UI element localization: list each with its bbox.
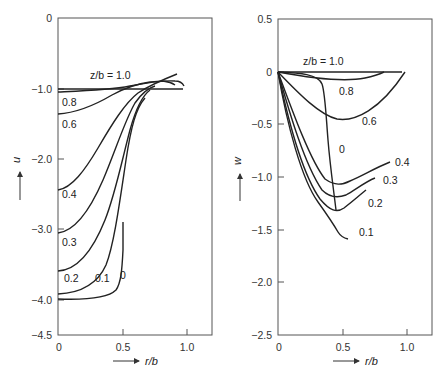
- left-curve-label-z0.8: 0.8: [62, 96, 77, 108]
- left-curve-label-z0: 0: [120, 269, 126, 281]
- curve-u-z0: [58, 222, 123, 299]
- right-y-tick-label: 0.5: [257, 13, 272, 25]
- right-x-axis: [343, 329, 407, 335]
- right-curve-label-z0.6: 0.6: [362, 115, 377, 127]
- figure: 0 −1.0 −2.0 −3.0 −4.0 −4.5 0 0.5 1.0 r/b…: [0, 0, 446, 379]
- curve-w-z0: [278, 72, 336, 210]
- right-x-tick-label: 0: [276, 341, 282, 353]
- right-x-tick-label: 1.0: [400, 341, 415, 353]
- right-plot-frame: [278, 19, 432, 335]
- left-y-tick-label: −1.0: [31, 83, 52, 95]
- left-y-axis-title: u: [10, 157, 22, 163]
- right-curve-label-z1.0: z/b = 1.0: [303, 55, 344, 67]
- left-curve-label-z0.2: 0.2: [64, 272, 79, 284]
- right-y-tick-label: 0: [266, 66, 272, 78]
- right-curve-label-z0: 0: [339, 143, 345, 155]
- left-y-tick-label: −4.5: [31, 329, 52, 341]
- right-curve-label-z0.3: 0.3: [383, 174, 398, 186]
- right-curve-label-z0.1: 0.1: [359, 226, 374, 238]
- right-curve-label-z0.2: 0.2: [368, 197, 383, 209]
- left-curve-label-z0.3: 0.3: [62, 236, 77, 248]
- left-y-tick-label: 0: [46, 12, 52, 24]
- left-curves: [58, 74, 184, 299]
- left-curve-label-z0.4: 0.4: [62, 188, 77, 200]
- right-y-tick-label: −1.0: [251, 171, 272, 183]
- right-chart-w: 0.5 0 −0.5 −1.0 −1.5 −2.0 −2.5 0 0.5 1.0…: [231, 13, 432, 367]
- left-x-axis: [123, 329, 187, 335]
- left-curve-label-z0.1: 0.1: [95, 272, 110, 284]
- curve-w-z0.1: [278, 72, 348, 239]
- curve-u-z0.3: [58, 86, 155, 233]
- left-x-axis-title: r/b: [145, 355, 158, 367]
- left-curve-label-z0.6: 0.6: [62, 118, 77, 130]
- right-y-axis: [278, 72, 284, 282]
- right-curves: [278, 72, 405, 239]
- left-y-tick-label: −4.0: [31, 294, 52, 306]
- right-y-tick-label: −1.5: [251, 224, 272, 236]
- right-x-axis-title: r/b: [365, 355, 378, 367]
- right-y-tick-label: −0.5: [251, 118, 272, 130]
- left-x-tick-label: 0.5: [116, 341, 131, 353]
- right-curve-label-z0.4: 0.4: [395, 156, 410, 168]
- left-curve-label-z1.0: z/b = 1.0: [90, 69, 131, 81]
- right-y-tick-label: −2.0: [251, 276, 272, 288]
- left-chart-u: 0 −1.0 −2.0 −3.0 −4.0 −4.5 0 0.5 1.0 r/b…: [10, 12, 212, 367]
- left-x-tick-label: 1.0: [180, 341, 195, 353]
- right-curve-label-z0.8: 0.8: [339, 85, 354, 97]
- left-plot-frame: [58, 18, 212, 335]
- right-y-axis-title: w: [231, 156, 243, 165]
- right-y-tick-label: −2.5: [251, 329, 272, 341]
- right-x-tick-label: 0.5: [336, 341, 351, 353]
- left-x-tick-label: 0: [56, 341, 62, 353]
- left-y-tick-label: −3.0: [31, 223, 52, 235]
- left-y-tick-label: −2.0: [31, 153, 52, 165]
